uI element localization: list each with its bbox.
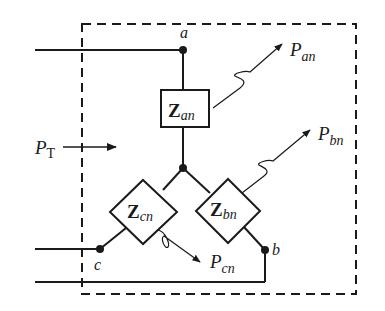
power-an-symbol: P [289, 39, 302, 60]
power-an-subscript: an [302, 49, 316, 64]
power-bn-label: Pbn [317, 123, 344, 148]
impedance-cn-symbol: Z [127, 201, 140, 222]
power-bn-subscript: bn [330, 133, 344, 148]
power-bn-symbol: P [317, 123, 330, 144]
node-b-label: b [272, 241, 280, 258]
node-a-dot [179, 46, 187, 54]
impedance-bn-subscript: bn [223, 207, 237, 222]
power-total-label: PT [34, 137, 56, 161]
impedance-bn-symbol: Z [210, 199, 223, 220]
impedance-an-symbol: Z [168, 100, 181, 121]
node-c-label: c [94, 256, 101, 273]
power-cn-symbol: P [209, 251, 222, 272]
wire-neutral-to-cn [163, 168, 183, 190]
power-bn-arrow [242, 130, 310, 193]
wire-a [35, 50, 183, 90]
wire-bn-to-b [244, 227, 265, 250]
power-an-arrow [213, 44, 282, 108]
wire-cn-to-c [100, 228, 126, 249]
power-cn-subscript: cn [222, 261, 235, 276]
power-an-label: Pan [289, 39, 316, 64]
power-total-subscript: T [47, 146, 56, 161]
impedance-cn-subscript: cn [140, 209, 153, 224]
power-total-symbol: P [34, 137, 47, 158]
wire-neutral-to-bn [183, 168, 210, 193]
power-cn-arrow [158, 230, 200, 262]
impedance-an-subscript: an [181, 108, 195, 123]
node-a-label: a [180, 24, 188, 41]
power-cn-label: Pcn [209, 251, 235, 276]
circuit-diagram: a b c Zan Zcn Zbn PT Pan Pbn Pcn [0, 0, 385, 311]
